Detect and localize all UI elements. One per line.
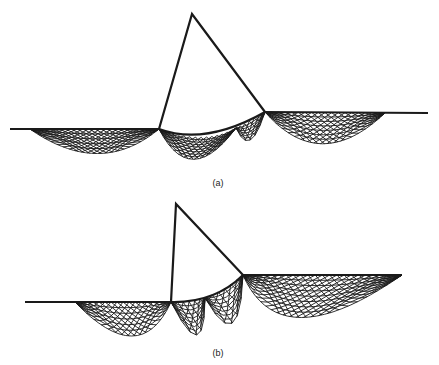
mesh-b (75, 275, 402, 336)
panel-label-b: (b) (213, 348, 224, 358)
wedge-a (159, 14, 265, 129)
mesh-a (30, 112, 385, 159)
panel-label-a: (a) (213, 178, 224, 188)
panel-b: (b) (25, 204, 402, 358)
panel-a: (a) (10, 14, 428, 188)
figure-canvas: (a) (b) (0, 0, 439, 365)
